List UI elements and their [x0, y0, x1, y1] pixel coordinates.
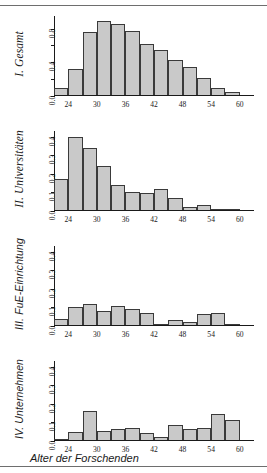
bar	[140, 44, 154, 96]
bar	[168, 425, 182, 441]
x-tick-label-2-2: 36	[122, 330, 130, 339]
bar	[183, 67, 197, 96]
bar	[68, 137, 82, 211]
figure-histogram-panels: I. Gesamt 0.00.40.8 24303642485460 II. U…	[0, 0, 267, 473]
x-tick-label-3-3: 42	[150, 445, 158, 454]
x-tick-label-0-3: 42	[150, 100, 158, 109]
x-tick-label-1-1: 30	[93, 215, 101, 224]
x-tick-label-2-6: 60	[236, 330, 244, 339]
x-tick-label-2-4: 48	[179, 330, 187, 339]
panel-caption-2: III. FuE-Einrichtung	[13, 232, 25, 336]
bar	[211, 313, 225, 326]
x-tick-label-2-3: 42	[150, 330, 158, 339]
bar	[154, 189, 168, 211]
x-tick-label-2-5: 54	[207, 330, 215, 339]
x-tick-label-0-1: 30	[93, 100, 101, 109]
x-tick-labels-2: 24303642485460	[54, 326, 254, 344]
bar	[140, 193, 154, 211]
panel-caption-0: I. Gesamt	[13, 2, 25, 106]
x-tick-label-1-3: 42	[150, 215, 158, 224]
x-tick-label-3-4: 48	[179, 445, 187, 454]
x-tick-label-1-2: 36	[122, 215, 130, 224]
x-tick-labels-0: 24303642485460	[54, 96, 254, 114]
bar	[68, 69, 82, 96]
x-axis-title: Alter der Forschenden	[30, 452, 139, 464]
x-tick-label-2-0: 24	[64, 330, 72, 339]
panel-1: II. Universitäten 0.00.10.20.30.4 243036…	[0, 123, 267, 239]
panel-0: I. Gesamt 0.00.40.8 24303642485460	[0, 8, 267, 124]
x-tick-label-1-5: 54	[207, 215, 215, 224]
x-tick-label-3-6: 60	[236, 445, 244, 454]
x-tick-label-1-6: 60	[236, 215, 244, 224]
x-tick-label-0-0: 24	[64, 100, 72, 109]
bar	[97, 21, 111, 96]
bar	[111, 306, 125, 326]
bar	[125, 192, 139, 211]
x-tick-label-0-4: 48	[179, 100, 187, 109]
plot-area-0: 0.00.40.8	[54, 16, 254, 96]
bar	[54, 179, 68, 211]
x-tick-label-1-0: 24	[64, 215, 72, 224]
x-tick-label-0-6: 60	[236, 100, 244, 109]
top-rule	[0, 5, 267, 6]
bar	[197, 78, 211, 96]
x-tick-label-2-1: 30	[93, 330, 101, 339]
bar	[83, 304, 97, 326]
x-tick-label-0-2: 36	[122, 100, 130, 109]
x-tick-label-0-5: 54	[207, 100, 215, 109]
bars-3	[54, 361, 254, 441]
panel-caption-1: II. Universitäten	[13, 117, 25, 221]
bar	[225, 420, 239, 441]
bars-0	[54, 16, 254, 96]
bar	[154, 50, 168, 96]
bar	[97, 166, 111, 211]
x-tick-label-3-5: 54	[207, 445, 215, 454]
bars-2	[54, 246, 254, 326]
bar	[125, 31, 139, 96]
bar	[168, 60, 182, 96]
bar	[68, 307, 82, 326]
bar	[83, 32, 97, 96]
bar	[83, 411, 97, 441]
bar	[111, 24, 125, 96]
panel-caption-3: IV. Unternehmen	[13, 347, 25, 451]
bar	[125, 309, 139, 326]
panel-2: III. FuE-Einrichtung 0.00.10.20.30.4 243…	[0, 238, 267, 354]
bar	[97, 311, 111, 326]
x-tick-label-1-4: 48	[179, 215, 187, 224]
bars-1	[54, 131, 254, 211]
x-tick-labels-1: 24303642485460	[54, 211, 254, 229]
bar	[83, 148, 97, 211]
plot-area-2: 0.00.10.20.30.4	[54, 246, 254, 326]
bar	[111, 185, 125, 211]
plot-area-3: 0.00.10.20.30.4	[54, 361, 254, 441]
bar	[211, 414, 225, 441]
plot-area-1: 0.00.10.20.30.4	[54, 131, 254, 211]
